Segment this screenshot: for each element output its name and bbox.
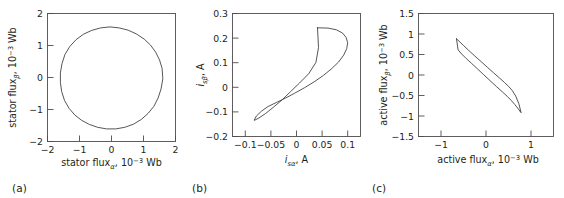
panel-c-ytick-3: 0	[408, 70, 414, 81]
panel-c-ytick-4: −0.5	[391, 90, 414, 101]
panel-b-ytick-4: −0.1	[205, 106, 228, 117]
panel-b: 0.3 0.2 0.1 0 −0.1 −0.2 −0.1 −0.05 0 0.0…	[186, 0, 374, 198]
panel-b-x-ticks	[245, 131, 347, 137]
panel-a-axes-frame	[48, 14, 176, 142]
panel-a-caption: (a)	[12, 182, 27, 194]
panel-b-xaxis-title: isα, A	[285, 154, 309, 168]
panel-b-ytick-5: −0.2	[205, 131, 228, 142]
panel-a-y-ticks	[48, 14, 54, 142]
panel-a-xaxis-title: stator fluxα, 10−3 Wb	[61, 157, 162, 170]
panel-a-ytick-3: −1	[29, 104, 43, 115]
panel-c-ytick-6: −1.5	[391, 131, 414, 142]
panel-a-ytick-0: 2	[37, 8, 43, 19]
panel-a-ytick-1: 1	[37, 40, 43, 51]
panel-c-ytick-5: −1	[400, 111, 414, 122]
panel-b-ytick-0: 0.3	[213, 8, 228, 19]
panel-c-x-ticks	[441, 131, 531, 137]
panel-c-ytick-1: 1	[408, 29, 414, 40]
panel-a-xtick-1: −1	[73, 144, 87, 155]
panel-a: 2 1 0 −1 −2 −2 −1 0 1 2 stator fluxα, 10…	[0, 0, 190, 198]
panel-b-ytick-1: 0.2	[213, 33, 228, 44]
panel-b-yaxis-title: isβ, A	[195, 63, 209, 87]
panel-c-xaxis-title: active fluxα, 10−3 Wb	[437, 154, 538, 168]
panel-b-xtick-2: 0	[294, 139, 300, 150]
panel-b-plot: 0.3 0.2 0.1 0 −0.1 −0.2 −0.1 −0.05 0 0.0…	[186, 0, 374, 170]
panel-a-xtick-2: 0	[109, 144, 115, 155]
panel-a-xtick-3: 1	[141, 144, 147, 155]
panel-c-xtick-1: 0	[483, 139, 489, 150]
panel-a-ytick-2: 0	[37, 72, 43, 83]
panel-c-xtick-2: 1	[528, 139, 534, 150]
panel-a-xtick-4: 2	[173, 144, 179, 155]
panel-a-x-ticks	[48, 136, 176, 142]
panel-c-ytick-0: 1.5	[399, 8, 414, 19]
panel-c: 1.5 1 0.5 0 −0.5 −1 −1.5 −1 0 1 active f…	[372, 0, 564, 198]
panel-a-xtick-0: −2	[41, 144, 55, 155]
panel-a-trace	[60, 27, 162, 129]
panel-a-yaxis-title: stator fluxβ, 10−3 Wb	[7, 27, 21, 127]
panel-b-caption: (b)	[192, 182, 207, 194]
panel-b-xtick-0: −0.1	[234, 139, 257, 150]
panel-c-plot: 1.5 1 0.5 0 −0.5 −1 −1.5 −1 0 1 active f…	[372, 0, 564, 170]
panel-a-plot: 2 1 0 −1 −2 −2 −1 0 1 2 stator fluxα, 10…	[0, 0, 190, 170]
panel-b-ytick-2: 0.1	[213, 57, 228, 68]
panel-b-trace	[254, 28, 347, 121]
panel-c-trace	[457, 39, 522, 113]
panel-b-y-ticks	[233, 14, 239, 137]
figure-three-phase-plane-plots: 2 1 0 −1 −2 −2 −1 0 1 2 stator fluxα, 10…	[0, 0, 564, 198]
panel-c-caption: (c)	[372, 182, 386, 194]
panel-b-xtick-3: 0.05	[312, 139, 333, 150]
panel-b-xtick-1: −0.05	[257, 139, 286, 150]
panel-b-xtick-4: 0.1	[340, 139, 355, 150]
panel-b-ytick-3: 0	[222, 82, 228, 93]
panel-c-ytick-2: 0.5	[399, 49, 414, 60]
panel-c-xtick-0: −1	[434, 139, 448, 150]
panel-c-y-ticks	[419, 14, 425, 137]
panel-c-yaxis-title: active fluxβ, 10−3 Wb	[378, 24, 392, 125]
panel-c-axes-frame	[419, 14, 554, 137]
